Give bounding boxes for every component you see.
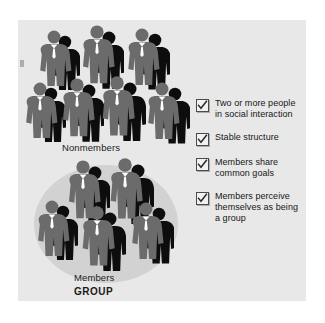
checkmark-icon[interactable] [196, 99, 209, 112]
group-label: GROUP [74, 286, 113, 297]
person-silhouette [38, 200, 78, 272]
checkmark-icon[interactable] [196, 192, 209, 205]
checkmark-icon[interactable] [196, 133, 209, 146]
criteria-item[interactable]: Two or more people in social interaction [196, 98, 302, 121]
criteria-label: Members perceive themselves as being a g… [215, 191, 302, 225]
criteria-item[interactable]: Members share common goals [196, 157, 302, 180]
person-silhouette [26, 82, 66, 154]
criteria-label: Members share common goals [215, 157, 302, 180]
person-silhouette [148, 82, 190, 156]
criteria-item[interactable]: Members perceive themselves as being a g… [196, 191, 302, 225]
person-silhouette [132, 202, 174, 276]
group-diagram-panel: Nonmembers [18, 20, 306, 301]
members-label: Members [74, 272, 114, 283]
nonmembers-label: Nonmembers [62, 142, 120, 153]
checkmark-icon[interactable] [196, 158, 209, 171]
criteria-item[interactable]: Stable structure [196, 132, 302, 146]
criteria-label: Stable structure [215, 132, 279, 143]
criteria-label: Two or more people in social interaction [215, 98, 302, 121]
nonmembers-figure-cluster [24, 24, 192, 154]
members-figure-cluster [24, 160, 192, 286]
group-criteria-checklist: Two or more people in social interaction… [196, 98, 302, 236]
